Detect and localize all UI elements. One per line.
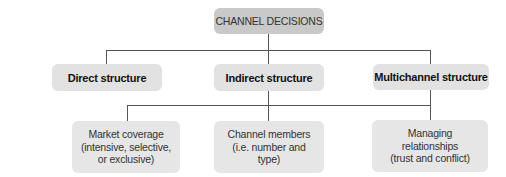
node-label: Indirect structure xyxy=(226,72,313,84)
root-label: CHANNEL DECISIONS xyxy=(215,15,322,27)
node-label: Direct structure xyxy=(68,72,147,84)
node-market-coverage: Market coverage (intensive, selective, o… xyxy=(72,121,180,173)
root-node-channel-decisions: CHANNEL DECISIONS xyxy=(214,8,324,34)
node-label: Managing relationships (trust and confli… xyxy=(390,127,469,165)
node-direct-structure: Direct structure xyxy=(52,64,162,91)
node-label: Multichannel structure xyxy=(374,71,488,83)
node-multichannel-structure: Multichannel structure xyxy=(373,64,489,90)
node-label: Channel members (i.e. number and type) xyxy=(228,128,311,166)
node-channel-members: Channel members (i.e. number and type) xyxy=(214,121,324,173)
node-managing-relationships: Managing relationships (trust and confli… xyxy=(372,120,488,172)
node-indirect-structure: Indirect structure xyxy=(214,64,324,91)
node-label: Market coverage (intensive, selective, o… xyxy=(81,128,171,166)
